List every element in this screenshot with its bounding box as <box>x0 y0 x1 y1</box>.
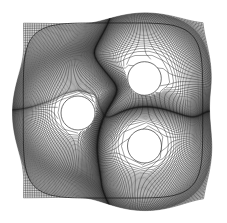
mesh-canvas <box>0 0 227 223</box>
hole-left <box>61 96 95 130</box>
mesh-grid-lines <box>12 13 211 211</box>
hole-top-right <box>128 62 162 96</box>
mesh-figure: Structured curvilinear mesh around three… <box>0 0 227 223</box>
hole-bottom-right <box>128 129 162 163</box>
